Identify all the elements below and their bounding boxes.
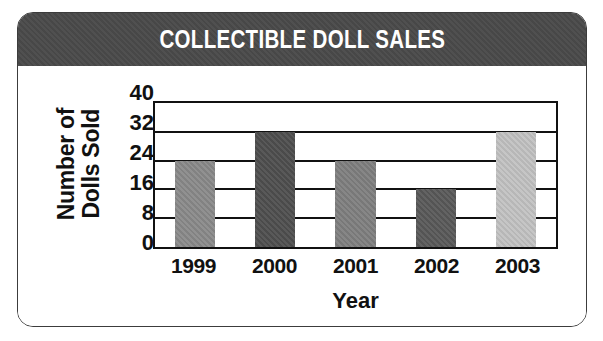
- bar-1999[interactable]: [175, 161, 215, 247]
- bar-2000[interactable]: [255, 132, 295, 247]
- x-tick-label-2001: 2001: [315, 254, 396, 278]
- bar-slot: [155, 103, 235, 247]
- y-axis-title: Number of Dolls Sold: [36, 84, 122, 244]
- y-axis-title-line-1: Number of: [55, 108, 78, 220]
- y-tick-label: 40: [114, 82, 154, 104]
- x-axis-title: Year: [153, 288, 558, 314]
- x-tick-label-2003: 2003: [477, 254, 558, 278]
- bar-slot: [315, 103, 395, 247]
- bar-series: [155, 103, 556, 247]
- y-tick-label: 24: [114, 142, 154, 164]
- bar-2001[interactable]: [335, 161, 375, 247]
- chart-plot-area: Number of Dolls Sold 0816243240 19992000…: [18, 66, 586, 327]
- x-axis-tick-labels: 19992000200120022003: [153, 254, 558, 278]
- chart-card: COLLECTIBLE DOLL SALES Number of Dolls S…: [17, 12, 587, 327]
- y-tick-label: 8: [114, 202, 154, 224]
- x-tick-label-1999: 1999: [153, 254, 234, 278]
- y-axis-title-line-2: Dolls Sold: [80, 109, 103, 218]
- y-tick-label: 32: [114, 112, 154, 134]
- y-tick-label: 0: [114, 232, 154, 254]
- x-tick-label-2000: 2000: [234, 254, 315, 278]
- x-tick-label-2002: 2002: [396, 254, 477, 278]
- bar-2003[interactable]: [496, 132, 536, 247]
- y-axis-tick-labels: 0816243240: [114, 93, 154, 243]
- chart-title-band: COLLECTIBLE DOLL SALES: [18, 13, 586, 66]
- bar-slot: [396, 103, 476, 247]
- plot-frame: [153, 101, 558, 249]
- bar-slot: [235, 103, 315, 247]
- chart-title: COLLECTIBLE DOLL SALES: [159, 25, 445, 54]
- y-tick-label: 16: [114, 172, 154, 194]
- bar-slot: [476, 103, 556, 247]
- bar-2002[interactable]: [416, 189, 456, 247]
